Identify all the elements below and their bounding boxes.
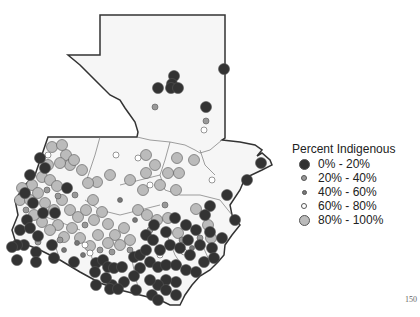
data-point xyxy=(57,140,68,151)
data-point xyxy=(45,152,51,158)
data-point xyxy=(141,168,152,179)
data-point xyxy=(23,207,29,213)
light-gray-large-circle-icon xyxy=(299,215,310,226)
legend-item-0-20: 0% - 20% xyxy=(292,157,395,171)
data-point xyxy=(119,223,130,234)
data-point xyxy=(209,253,220,264)
data-point xyxy=(155,180,166,191)
data-point xyxy=(72,192,78,198)
data-point xyxy=(195,240,206,251)
data-point xyxy=(222,190,233,201)
data-point xyxy=(256,158,267,169)
data-point xyxy=(209,177,215,183)
data-point xyxy=(161,260,172,271)
data-point xyxy=(172,153,183,164)
data-point xyxy=(77,165,88,176)
data-point xyxy=(125,175,136,186)
data-point xyxy=(82,242,88,248)
dark-gray-tiny-circle-icon xyxy=(302,190,307,195)
data-point xyxy=(40,163,51,174)
data-point xyxy=(91,280,102,291)
data-point xyxy=(82,222,88,228)
data-point xyxy=(38,208,49,219)
data-point xyxy=(242,175,253,186)
data-point xyxy=(75,241,80,246)
data-point xyxy=(133,218,138,223)
data-point xyxy=(200,210,211,221)
data-point xyxy=(101,273,112,284)
data-point xyxy=(81,205,92,216)
data-point xyxy=(33,188,44,199)
data-point xyxy=(12,255,23,266)
data-point xyxy=(31,257,42,268)
data-point xyxy=(103,238,114,249)
white-small-circle-icon xyxy=(301,203,307,209)
data-point xyxy=(52,181,63,192)
legend-item-20-40: 20% - 40% xyxy=(292,171,395,185)
data-point xyxy=(161,285,172,296)
data-point xyxy=(170,213,181,224)
data-point xyxy=(150,160,161,171)
data-point xyxy=(171,260,182,271)
data-point xyxy=(62,183,73,194)
data-point xyxy=(49,253,60,264)
page-number: 150 xyxy=(405,295,417,304)
legend-item-60-80: 60% - 80% xyxy=(292,199,395,213)
data-point xyxy=(185,250,196,261)
data-point xyxy=(115,240,126,251)
data-point xyxy=(191,267,202,278)
data-point xyxy=(181,265,192,276)
data-point xyxy=(217,233,228,244)
data-point xyxy=(25,223,36,234)
data-point xyxy=(131,285,142,296)
data-point xyxy=(97,247,103,253)
data-point xyxy=(153,83,164,94)
data-point xyxy=(113,152,119,158)
data-point xyxy=(141,150,152,161)
data-point xyxy=(62,248,67,253)
data-point xyxy=(207,243,218,254)
data-point xyxy=(55,193,61,199)
data-point xyxy=(183,235,194,246)
data-point xyxy=(81,253,86,258)
gray-small-circle-icon xyxy=(301,175,307,181)
data-point xyxy=(40,198,51,209)
data-point xyxy=(87,250,93,256)
data-point xyxy=(45,225,56,236)
data-point xyxy=(171,277,182,288)
data-point xyxy=(89,215,100,226)
data-point xyxy=(153,295,164,306)
data-point xyxy=(103,219,114,230)
data-point xyxy=(141,245,152,256)
data-point xyxy=(55,158,66,169)
data-point xyxy=(199,257,210,268)
data-point xyxy=(203,118,209,124)
dark-large-circle-icon xyxy=(299,159,310,170)
data-point xyxy=(83,178,94,189)
data-point xyxy=(50,208,61,219)
data-point xyxy=(69,257,80,268)
data-point xyxy=(175,243,186,254)
data-point xyxy=(152,104,158,110)
data-point xyxy=(162,202,168,208)
data-point xyxy=(57,237,63,243)
legend-item-80-100: 80% - 100% xyxy=(292,213,395,227)
data-point xyxy=(138,185,149,196)
data-point xyxy=(118,198,123,203)
data-point xyxy=(171,185,182,196)
data-point xyxy=(147,182,153,188)
data-point xyxy=(33,231,44,242)
data-point xyxy=(165,240,176,251)
data-point xyxy=(189,155,200,166)
data-point xyxy=(7,242,18,253)
data-point xyxy=(125,235,136,246)
data-point xyxy=(174,168,185,179)
data-point xyxy=(148,235,159,246)
data-point xyxy=(171,290,182,301)
data-point xyxy=(90,267,101,278)
data-point xyxy=(25,170,36,181)
data-point xyxy=(173,83,184,94)
legend: Percent Indigenous 0% - 20% 20% - 40% 40… xyxy=(292,142,395,227)
data-point xyxy=(142,210,153,221)
data-point xyxy=(145,275,156,286)
